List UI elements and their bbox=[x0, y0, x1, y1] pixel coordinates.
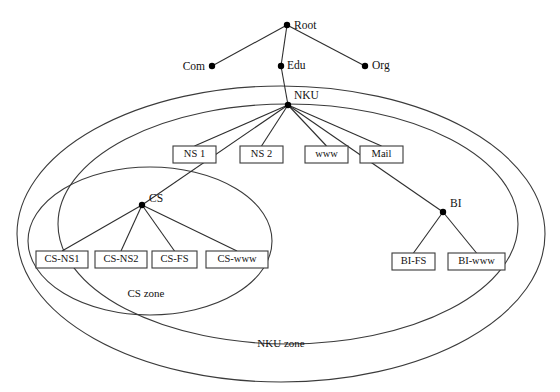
node-dot-org bbox=[362, 63, 368, 69]
node-label-bi: BI bbox=[450, 197, 462, 209]
node-dot-edu bbox=[278, 63, 284, 69]
diagram-canvas: NS 1NS 2wwwMailCS-NS1CS-NS2CS-FSCS-wwwBI… bbox=[0, 0, 560, 392]
tree-edge-bi-to-bi-fs bbox=[414, 212, 444, 253]
node-label-root: Root bbox=[294, 19, 317, 31]
host-box-ns1[interactable]: NS 1 bbox=[173, 146, 216, 163]
host-box-mail[interactable]: Mail bbox=[360, 146, 403, 163]
tree-node-com[interactable]: Com bbox=[183, 60, 216, 72]
zone-label-cs-zone: CS zone bbox=[128, 287, 165, 299]
tree-edge-cs-to-cs-ns1 bbox=[62, 205, 142, 251]
dns-hierarchy-diagram: NS 1NS 2wwwMailCS-NS1CS-NS2CS-FSCS-wwwBI… bbox=[0, 0, 560, 392]
host-box-bi-www[interactable]: BI-www bbox=[448, 253, 505, 270]
host-box-label-bi-www: BI-www bbox=[458, 255, 495, 266]
tree-node-root[interactable]: Root bbox=[284, 19, 317, 31]
host-box-cs-www[interactable]: CS-www bbox=[206, 251, 268, 268]
tree-nodes-group: RootComEduOrgNKUCSBI bbox=[139, 19, 462, 215]
tree-node-org[interactable]: Org bbox=[362, 59, 390, 72]
node-label-nku: NKU bbox=[294, 89, 320, 101]
tree-edge-bi-to-bi-www bbox=[443, 212, 477, 253]
host-box-ns2[interactable]: NS 2 bbox=[240, 146, 283, 163]
host-box-label-ns1: NS 1 bbox=[184, 148, 205, 159]
host-box-bi-fs[interactable]: BI-FS bbox=[392, 253, 435, 270]
tree-edge-cs-to-cs-ns2 bbox=[121, 205, 142, 251]
node-label-cs: CS bbox=[149, 192, 163, 204]
host-box-label-cs-www: CS-www bbox=[217, 253, 257, 264]
tree-node-bi[interactable]: BI bbox=[440, 197, 462, 215]
node-label-edu: Edu bbox=[287, 59, 306, 71]
tree-edge-nku-to-www bbox=[288, 105, 327, 146]
host-box-label-cs-fs: CS-FS bbox=[160, 253, 188, 264]
host-box-label-bi-fs: BI-FS bbox=[401, 255, 427, 266]
host-box-label-cs-ns1: CS-NS1 bbox=[44, 253, 79, 264]
tree-edge-cs-to-cs-www bbox=[142, 205, 237, 251]
zone-label-nku-zone-outer: NKU zone bbox=[257, 337, 304, 349]
host-box-label-mail: Mail bbox=[372, 148, 392, 159]
tree-node-cs[interactable]: CS bbox=[139, 192, 163, 208]
node-dot-root bbox=[284, 22, 290, 28]
zone-labels-group: NKU zoneCS zone bbox=[128, 287, 305, 349]
zone-ellipse-nku-zone-inner bbox=[58, 104, 518, 344]
tree-edge-cs-to-cs-fs bbox=[142, 205, 175, 251]
host-box-label-cs-ns2: CS-NS2 bbox=[103, 253, 138, 264]
tree-edges-group bbox=[62, 25, 477, 253]
node-label-org: Org bbox=[372, 59, 390, 72]
node-dot-cs bbox=[139, 202, 145, 208]
node-dot-nku bbox=[285, 102, 291, 108]
host-box-www[interactable]: www bbox=[305, 146, 348, 163]
node-dot-bi bbox=[440, 209, 446, 215]
host-box-cs-ns2[interactable]: CS-NS2 bbox=[95, 251, 147, 268]
host-box-cs-ns1[interactable]: CS-NS1 bbox=[36, 251, 88, 268]
host-box-label-www: www bbox=[315, 148, 338, 159]
node-label-com: Com bbox=[183, 60, 205, 72]
node-dot-com bbox=[209, 63, 215, 69]
tree-edge-root-to-com bbox=[212, 25, 287, 66]
host-box-cs-fs[interactable]: CS-FS bbox=[152, 251, 197, 268]
host-box-label-ns2: NS 2 bbox=[251, 148, 272, 159]
